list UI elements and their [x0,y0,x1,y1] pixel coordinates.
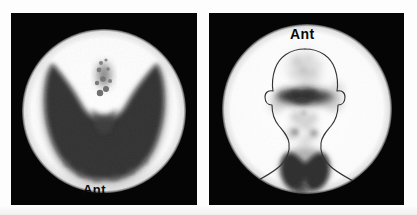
orientation-label-left: Ant [83,182,106,197]
page-edge-shading [0,206,417,215]
thyroid-pinhole-image [11,13,197,205]
scan-panel-left[interactable] [11,13,197,205]
scintigraphy-figure: Ant [0,0,417,215]
orientation-label-right: Ant [290,26,315,42]
